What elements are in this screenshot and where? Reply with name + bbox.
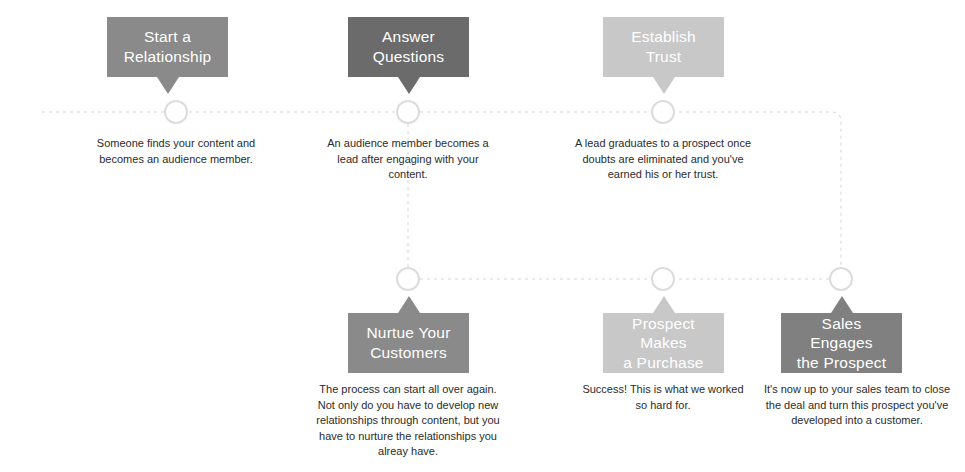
callout-label-line1-sales-engages-the-prospect: Sales Engages [810,315,873,352]
callout-start-a-relationship[interactable]: Start a Relationship [107,17,228,77]
callout-prospect-makes-a-purchase[interactable]: Prospect Makes a Purchase [603,313,724,373]
timeline-node-establish-trust[interactable] [651,100,675,124]
callout-label-line1-prospect-makes-a-purchase: Prospect Makes [632,315,695,352]
callout-body-prospect-makes-a-purchase: Prospect Makes a Purchase [603,313,724,373]
callout-body-answer-questions: Answer Questions [348,17,469,77]
callout-answer-questions[interactable]: Answer Questions [348,17,469,77]
timeline-node-prospect-makes-a-purchase[interactable] [651,267,675,291]
callout-sales-engages-the-prospect[interactable]: Sales Engages the Prospect [781,313,902,373]
callout-label-line1-start-a-relationship: Start a [144,28,191,45]
callout-pointer-start-a-relationship [157,77,179,94]
callout-body-sales-engages-the-prospect: Sales Engages the Prospect [781,313,902,373]
callout-label-line2-prospect-makes-a-purchase: a Purchase [623,354,703,371]
timeline-node-start-a-relationship[interactable] [164,100,188,124]
caption-sales-engages-the-prospect: It's now up to your sales team to close … [762,382,952,429]
caption-prospect-makes-a-purchase: Success! This is what we worked so hard … [578,382,748,413]
callout-pointer-prospect-makes-a-purchase [653,296,675,313]
callout-label-line2-sales-engages-the-prospect: the Prospect [797,354,886,371]
callout-label-line1-establish-trust: Establish [631,28,696,45]
timeline-node-sales-engages-the-prospect[interactable] [829,267,853,291]
caption-nurtue-your-customers: The process can start all over again. No… [313,382,503,460]
callout-establish-trust[interactable]: Establish Trust [603,17,724,77]
callout-label-line1-nurtue-your-customers: Nurtue Your [366,324,450,341]
caption-answer-questions: An audience member becomes a lead after … [318,136,498,183]
caption-start-a-relationship: Someone finds your content and becomes a… [88,136,264,167]
callout-body-start-a-relationship: Start a Relationship [107,17,228,77]
callout-pointer-sales-engages-the-prospect [831,296,853,313]
callout-pointer-answer-questions [398,77,420,94]
caption-establish-trust: A lead graduates to a prospect once doub… [573,136,753,183]
timeline-node-answer-questions[interactable] [396,100,420,124]
callout-body-nurtue-your-customers: Nurtue Your Customers [348,313,469,373]
callout-body-establish-trust: Establish Trust [603,17,724,77]
callout-nurtue-your-customers[interactable]: Nurtue Your Customers [348,313,469,373]
callout-label-line2-answer-questions: Questions [373,48,445,65]
diagram-canvas: Start a Relationship Someone finds your … [0,0,965,472]
callout-pointer-establish-trust [653,77,675,94]
callout-label-line1-answer-questions: Answer [382,28,435,45]
callout-pointer-nurtue-your-customers [398,296,420,313]
callout-label-line2-start-a-relationship: Relationship [124,48,212,65]
callout-label-line2-establish-trust: Trust [646,48,682,65]
callout-label-line2-nurtue-your-customers: Customers [370,344,447,361]
timeline-node-nurtue-your-customers[interactable] [396,267,420,291]
